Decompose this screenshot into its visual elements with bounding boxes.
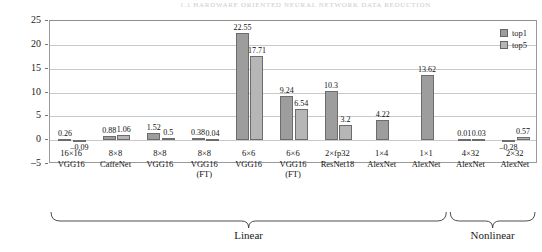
x-category-line1: 8×8 [109,148,122,158]
bar-top1-3 [192,138,205,140]
x-category-line1: 1×4 [375,148,388,158]
bar-label-top5-5: 6.54 [281,99,321,108]
bar-top5-1 [117,135,130,140]
brace-path-1 [450,212,535,228]
legend: top1 top5 [497,25,531,53]
bar-label-top1-8: 13.62 [407,65,447,74]
x-category-line3: (FT) [261,169,325,180]
bar-label-top1-7: 4.22 [363,110,403,119]
x-category-line1: 16×16 [60,148,82,158]
y-tick-label-0: 0 [11,133,41,144]
bar-top1-8 [421,75,434,140]
x-category-label-10: 2×32AlexNet [483,148,542,169]
legend-item-top1: top1 [500,27,527,39]
bar-top5-9 [472,139,485,141]
y-tick-mark-0 [45,139,48,140]
bar-top5-4 [250,56,263,140]
x-category-line1: 1×1 [419,148,432,158]
x-category-line1: 4×32 [462,148,480,158]
y-tick-label-15: 15 [11,62,41,73]
bar-top5-6 [339,125,352,140]
bar-label-top5-10: 0.57 [503,127,542,136]
bar-label-top5-4: 17.71 [237,46,277,55]
y-tick-mark-25 [45,20,48,21]
y-tick-label-25: 25 [11,14,41,25]
bar-top1-0 [58,139,71,141]
y-tick-mark-10 [45,92,48,93]
bar-top5-2 [162,138,175,140]
plot-area: 0.26–0.090.881.061.520.50.380.0422.5517.… [49,20,537,163]
x-category-line1: 8×8 [153,148,166,158]
bar-top5-10 [517,137,530,140]
bar-label-top5-3: 0.04 [193,129,233,138]
bar-label-top1-6: 10.3 [311,81,351,90]
x-category-line1: 6×6 [286,148,299,158]
bar-label-top1-4: 22.55 [222,23,262,32]
y-tick-mark-20 [45,44,48,45]
bar-label-top5-9: 0.03 [459,129,499,138]
legend-swatch-top1 [500,29,508,37]
legend-item-top5: top5 [500,39,527,51]
y-tick-label-5: 5 [11,109,41,120]
x-category-line1: 2×32 [506,148,524,158]
gridline-15 [50,69,536,70]
y-tick-mark-5 [45,115,48,116]
y-tick-label-20: 20 [11,38,41,49]
bar-label-top1-5: 9.24 [267,86,307,95]
bar-top1-1 [103,136,116,140]
legend-label-top5: top5 [512,39,527,51]
group-brace-svg [0,212,542,252]
bar-top5-3 [206,139,219,141]
bar-top1-7 [376,120,389,140]
bar-label-top5-6: 3.2 [326,115,366,124]
brace-path-0 [51,212,446,228]
bar-top5-5 [295,109,308,140]
bar-label-top1-0: 0.26 [45,129,85,138]
bar-top1-9 [458,139,471,141]
y-tick-mark-15 [45,68,48,69]
x-category-line3: (FT) [172,169,236,180]
legend-swatch-top5 [500,41,508,49]
x-category-line1: 6×6 [242,148,255,158]
y-tick-label--5: –5 [11,157,41,168]
running-page-header: 1.1 Hardware Oriented Neural Network Dat… [180,1,530,10]
gridline-20 [50,45,536,46]
x-category-line2: AlexNet [483,159,542,170]
x-category-line1: 2×fp32 [325,148,350,158]
y-tick-label-10: 10 [11,86,41,97]
x-category-line1: 8×8 [198,148,211,158]
legend-label-top1: top1 [512,27,527,39]
